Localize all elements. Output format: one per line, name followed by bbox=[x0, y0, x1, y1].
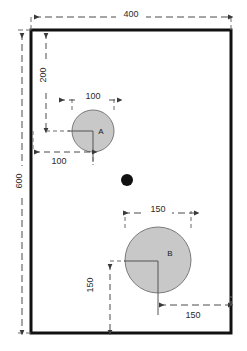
dimension-label-circle-a-offset-top: 200 bbox=[38, 67, 48, 82]
dimension-label-plate-width: 400 bbox=[123, 9, 138, 19]
dimension-label-plate-height: 600 bbox=[14, 173, 24, 188]
circle-a-label: A bbox=[98, 127, 104, 136]
diagram-canvas: 400 600 A 100 200 100 B bbox=[0, 0, 247, 351]
point-dot bbox=[121, 174, 133, 186]
circle-b-label: B bbox=[167, 249, 172, 258]
dimension-label-circle-b-offset-right: 150 bbox=[185, 310, 200, 320]
dimension-label-circle-a-offset-left: 100 bbox=[51, 156, 66, 166]
dimension-label-circle-a-diameter: 100 bbox=[85, 91, 100, 101]
dimension-label-circle-b-diameter: 150 bbox=[150, 204, 165, 214]
engineering-drawing: 400 600 A 100 200 100 B bbox=[0, 0, 247, 351]
dimension-label-circle-b-offset-bottom: 150 bbox=[85, 277, 95, 292]
